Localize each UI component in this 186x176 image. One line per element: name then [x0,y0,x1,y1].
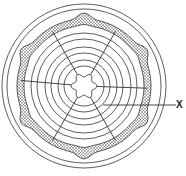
label-x: X [176,99,183,110]
cross-section-diagram [0,0,186,176]
lobed-core [71,75,97,98]
